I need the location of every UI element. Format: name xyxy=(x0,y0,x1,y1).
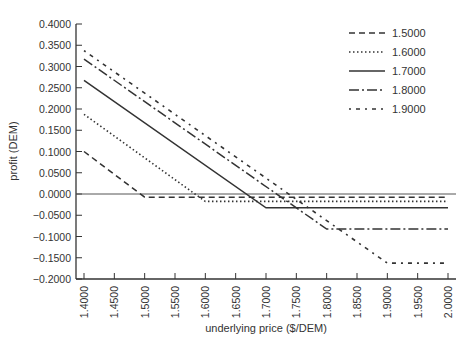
series-line-1.9000 xyxy=(84,51,448,264)
payoff-chart: 0.40000.35000.30000.25000.20000.15000.10… xyxy=(0,0,475,348)
series-line-1.7000 xyxy=(84,80,448,208)
legend-label: 1.6000 xyxy=(392,46,426,58)
series-line-1.5000 xyxy=(84,152,448,198)
y-tick-label: 0.3500 xyxy=(39,39,71,51)
x-tick-label: 1.9500 xyxy=(412,286,424,318)
y-axis-label: profit (DEM) xyxy=(7,121,19,180)
y-axis-ticks: 0.40000.35000.30000.25000.20000.15000.10… xyxy=(33,18,82,285)
legend-label: 1.7000 xyxy=(392,65,426,77)
y-tick-label: 0.4000 xyxy=(39,18,71,30)
y-tick-label: −0.0500 xyxy=(33,209,71,221)
series-lines xyxy=(84,51,448,264)
x-tick-label: 2.0000 xyxy=(442,286,454,318)
y-tick-label: −0.1000 xyxy=(33,231,71,243)
x-tick-label: 1.8000 xyxy=(321,286,333,318)
y-tick-label: −0.1500 xyxy=(33,252,71,264)
x-tick-label: 1.4500 xyxy=(108,286,120,318)
x-axis-label: underlying price ($/DEM) xyxy=(205,322,327,334)
y-tick-label: 0.2500 xyxy=(39,82,71,94)
y-tick-label: 0.0500 xyxy=(39,167,71,179)
legend-label: 1.9000 xyxy=(392,103,426,115)
legend-label: 1.5000 xyxy=(392,27,426,39)
x-tick-label: 1.6000 xyxy=(199,286,211,318)
y-tick-label: 0.2000 xyxy=(39,103,71,115)
x-tick-label: 1.4000 xyxy=(78,286,90,318)
y-tick-label: 0.0000 xyxy=(39,188,71,200)
y-tick-label: −0.2000 xyxy=(33,273,71,285)
legend: 1.50001.60001.70001.80001.9000 xyxy=(349,27,426,115)
x-tick-label: 1.7000 xyxy=(260,286,272,318)
x-tick-label: 1.9000 xyxy=(381,286,393,318)
y-tick-label: 0.3000 xyxy=(39,61,71,73)
x-axis-ticks: 1.40001.45001.50001.55001.60001.65001.70… xyxy=(78,273,454,318)
series-line-1.6000 xyxy=(84,114,448,201)
x-tick-label: 1.6500 xyxy=(230,286,242,318)
x-tick-label: 1.8500 xyxy=(351,286,363,318)
y-tick-label: 0.1000 xyxy=(39,146,71,158)
x-tick-label: 1.7500 xyxy=(290,286,302,318)
legend-label: 1.8000 xyxy=(392,84,426,96)
x-tick-label: 1.5000 xyxy=(139,286,151,318)
x-tick-label: 1.5500 xyxy=(169,286,181,318)
y-tick-label: 0.1500 xyxy=(39,124,71,136)
